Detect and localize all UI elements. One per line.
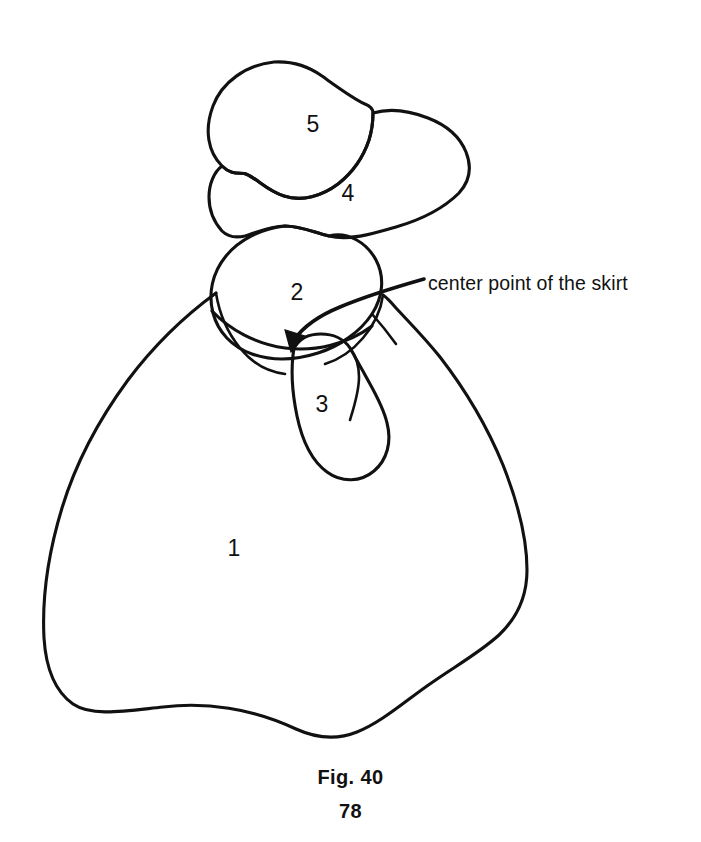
region-label-5: 5	[307, 111, 320, 137]
figure-caption: Fig. 40	[0, 766, 701, 789]
region-5-outline	[208, 62, 373, 198]
figure-page: 1 2 3 4 5 center point of the skirt Fig.…	[0, 0, 701, 842]
region-label-3: 3	[316, 391, 329, 417]
region-label-4: 4	[342, 180, 355, 206]
region-4-outline	[209, 111, 469, 238]
skirt-gather-left	[216, 293, 285, 374]
callout-center-point-of-the-skirt: center point of the skirt	[428, 272, 628, 295]
figure-line-drawing: 1 2 3 4 5	[0, 0, 701, 842]
region-label-2: 2	[291, 279, 304, 305]
region-label-1: 1	[228, 535, 241, 561]
page-number: 78	[0, 800, 701, 823]
